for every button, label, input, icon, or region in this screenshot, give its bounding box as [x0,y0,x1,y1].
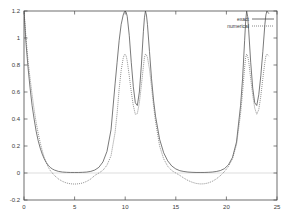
legend-label-exact: exact [237,16,250,22]
x-tick-label: 0 [22,204,26,210]
x-axis-tick-labels: 0510152025 [22,204,281,210]
legend-label-numerical: numerical [227,23,249,29]
series-lines [24,11,269,184]
y-tick-label: 0 [17,170,21,176]
x-tick-label: 15 [172,204,179,210]
y-tick-label: 0.4 [12,116,21,122]
y-axis-tick-labels: -0.200.20.40.60.811.2 [10,8,21,203]
chart-legend: exactnumerical [227,16,274,29]
y-tick-label: 1.2 [12,8,21,14]
y-tick-label: 0.2 [12,143,21,149]
y-tick-label: -0.2 [10,197,21,203]
y-tick-label: 0.6 [12,89,21,95]
y-tick-label: 1 [17,35,21,41]
chart-figure: 0510152025 -0.200.20.40.60.811.2 exactnu… [0,0,286,221]
x-tick-label: 5 [73,204,77,210]
series-line-exact [24,11,269,172]
plot-canvas: 0510152025 -0.200.20.40.60.811.2 exactnu… [0,0,286,221]
x-tick-label: 25 [274,204,281,210]
x-tick-label: 20 [223,204,230,210]
x-tick-label: 10 [122,204,129,210]
y-tick-label: 0.8 [12,62,21,68]
